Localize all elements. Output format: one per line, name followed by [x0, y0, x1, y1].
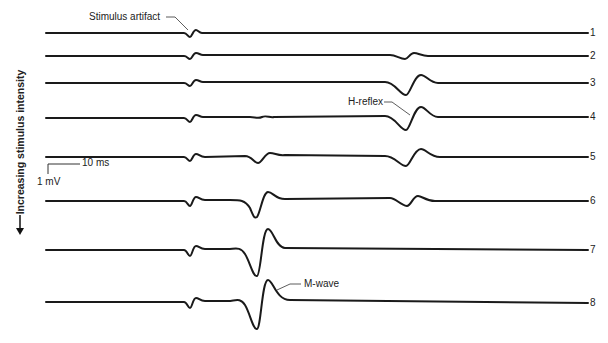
- y-axis-label: Increasing stimulus intensity: [14, 62, 26, 222]
- trace-label-7: 7: [590, 244, 596, 255]
- trace-label-5: 5: [590, 151, 596, 162]
- scale-bar: [48, 164, 80, 174]
- trace-label-1: 1: [590, 27, 596, 38]
- trace-6: [46, 192, 588, 218]
- m-wave-leader: [277, 284, 301, 290]
- scale-time-label: 10 ms: [82, 157, 109, 168]
- trace-label-6: 6: [590, 195, 596, 206]
- trace-7: [46, 229, 588, 276]
- emg-traces-diagram: [0, 0, 608, 343]
- m-wave-label: M-wave: [304, 278, 339, 289]
- trace-label-3: 3: [590, 77, 596, 88]
- trace-1: [46, 30, 588, 37]
- trace-4: [46, 107, 588, 130]
- trace-2: [46, 53, 588, 59]
- scale-amplitude-label: 1 mV: [37, 176, 60, 187]
- trace-label-4: 4: [590, 111, 596, 122]
- h-reflex-label: H-reflex: [348, 96, 383, 107]
- h-reflex-leader: [384, 102, 410, 115]
- trace-label-2: 2: [590, 50, 596, 61]
- trace-5: [46, 149, 588, 166]
- stimulus-artifact-leader: [166, 17, 188, 30]
- stimulus-artifact-label: Stimulus artifact: [89, 11, 160, 22]
- trace-label-8: 8: [590, 297, 596, 308]
- trace-3: [46, 75, 588, 95]
- arrow-head-icon: [16, 228, 24, 235]
